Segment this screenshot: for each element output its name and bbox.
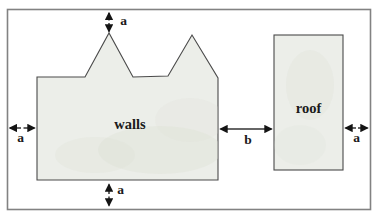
gap-b-label: b [244,132,252,147]
margin-a-left-label: a [17,130,24,145]
margin-a-bottom-label: a [117,182,124,197]
roof-label: roof [296,100,322,116]
margin-a-top-label: a [120,13,127,28]
walls-label: walls [114,116,146,132]
margin-a-right-label: a [353,130,360,145]
margins-figure: walls roof a a a a b [0,0,376,218]
margins-diagram: walls roof a a a a b [0,0,376,218]
